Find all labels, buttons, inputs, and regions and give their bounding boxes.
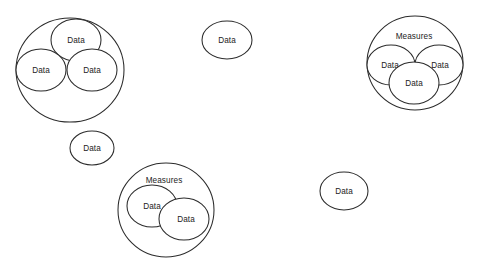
data-label: Data [143,202,161,211]
diagram-canvas: Data Data Data Data Data Measures [0,0,480,271]
node-mid-left[interactable]: Data [70,131,114,165]
data-label: Data [218,36,236,45]
cluster-left-node-3[interactable]: Data [67,49,117,91]
cluster-right[interactable]: Measures Data Data Data [367,16,463,110]
data-label: Data [405,79,423,88]
node-bottom-right[interactable]: Data [320,172,368,210]
data-label: Data [32,66,50,75]
data-label: Data [335,187,353,196]
data-label: Data [83,66,101,75]
cluster-right-node-3[interactable]: Data [389,62,439,104]
cluster-bottom-center[interactable]: Measures Data Data [118,163,214,257]
node-top-center[interactable]: Data [202,21,252,59]
cluster-left[interactable]: Data Data Data [16,18,124,122]
data-label: Data [177,215,195,224]
data-label: Data [67,36,85,45]
data-label: Data [431,61,449,70]
cluster-bottom-center-node-2[interactable]: Data [159,198,209,240]
venn-cluster-diagram: Data Data Data Data Data Measures [0,0,480,271]
cluster-left-node-2[interactable]: Data [16,49,66,91]
data-label: Data [83,144,101,153]
cluster-bottom-center-label: Measures [146,176,183,185]
cluster-right-label: Measures [396,32,433,41]
